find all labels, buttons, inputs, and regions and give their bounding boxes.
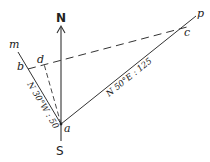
course-label-a-p: N 50°E : 125 bbox=[103, 56, 154, 100]
point-label-m: m bbox=[9, 38, 19, 51]
point-label-d: d bbox=[37, 53, 44, 66]
traverse-diagram: N S a b c d m p N 30°W : 50 N 50°E : 125 bbox=[0, 0, 210, 162]
point-label-a: a bbox=[64, 122, 71, 135]
north-label: N bbox=[56, 11, 66, 25]
point-label-c: c bbox=[184, 26, 190, 39]
point-label-p: p bbox=[197, 7, 204, 20]
point-label-b: b bbox=[17, 60, 24, 73]
dashed-line-b-c bbox=[28, 27, 187, 69]
south-label: S bbox=[56, 144, 64, 158]
